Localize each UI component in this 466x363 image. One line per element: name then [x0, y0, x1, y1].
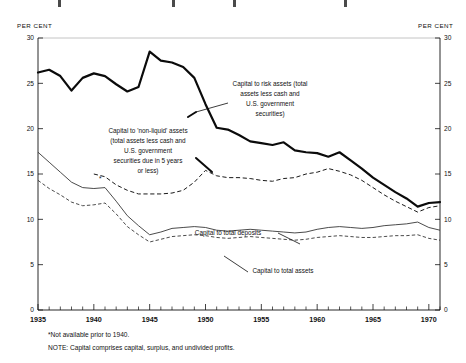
chart-container: PER CENT PER CENT 0510152025300510152025… [0, 0, 466, 363]
annotation-risk-assets-line1: Capital to risk assets (total [233, 80, 308, 88]
annotation-non-liquid-line3: U.S. government [124, 147, 172, 155]
y-tick-label-right-15: 15 [444, 170, 452, 177]
footnote-asterisk: *Not available prior to 1940. [48, 331, 130, 339]
x-tick-label-1935: 1935 [30, 315, 46, 324]
annotation-non-liquid: Capital to 'non-liquid' assets (total as… [108, 127, 212, 175]
plot-frame [38, 38, 440, 310]
y-tick-label-right-0: 0 [444, 306, 448, 313]
x-tick-label-1945: 1945 [142, 315, 158, 324]
x-tick-label-1940: 1940 [86, 315, 102, 324]
x-tick-label-1965: 1965 [365, 315, 381, 324]
annotation-non-liquid-line2: (total assets less cash and [110, 137, 186, 145]
y-tick-label-5: 5 [30, 261, 34, 268]
annotation-risk-assets-line4: securities) [255, 110, 284, 118]
x-tick-label-1955: 1955 [253, 315, 269, 324]
x-tick-label-1970: 1970 [421, 315, 437, 324]
y-tick-label-right-30: 30 [444, 34, 452, 41]
left-axis-title: PER CENT [17, 22, 52, 29]
annotation-total-assets-label: Capital to total assets [252, 267, 313, 275]
y-tick-label-0: 0 [30, 306, 34, 313]
y-tick-label-right-10: 10 [444, 216, 452, 223]
y-tick-label-right-5: 5 [444, 261, 448, 268]
x-tick-label-1960: 1960 [309, 315, 325, 324]
series-line-0 [38, 52, 440, 207]
series-line-1 [94, 169, 440, 213]
series-line-2 [38, 152, 440, 235]
footnote-note: NOTE: Capital comprises capital, surplus… [48, 344, 235, 352]
x-tick-label-1950: 1950 [198, 315, 214, 324]
bank-capital-ratios-chart: PER CENT PER CENT 0510152025300510152025… [0, 0, 466, 363]
y-tick-label-right-20: 20 [444, 125, 452, 132]
annotation-risk-assets: Capital to risk assets (total assets les… [188, 80, 307, 118]
annotation-non-liquid-line4: securities due in 5 years [114, 157, 183, 165]
annotation-risk-assets-line2: assets less cash and [240, 90, 300, 97]
y-tick-label-25: 25 [27, 80, 35, 87]
y-tick-label-10: 10 [27, 216, 35, 223]
annotation-non-liquid-line5: or less) [138, 167, 159, 175]
right-axis-title: PER CENT [418, 22, 453, 29]
y-tick-label-15: 15 [27, 170, 35, 177]
y-axis: 051015202530051015202530 [27, 34, 452, 313]
x-axis: 19351940194519501955196019651970 [30, 304, 440, 324]
annotation-total-assets: Capital to total assets [224, 256, 314, 275]
y-tick-label-20: 20 [27, 125, 35, 132]
annotation-non-liquid-line1: Capital to 'non-liquid' assets [108, 127, 187, 135]
annotation-total-deposits-label: Capital to total deposits [195, 229, 261, 237]
y-tick-label-30: 30 [27, 34, 35, 41]
annotation-risk-assets-line3: U.S. government [246, 100, 294, 108]
y-tick-label-right-25: 25 [444, 80, 452, 87]
page-scan-artifact [58, 0, 347, 7]
